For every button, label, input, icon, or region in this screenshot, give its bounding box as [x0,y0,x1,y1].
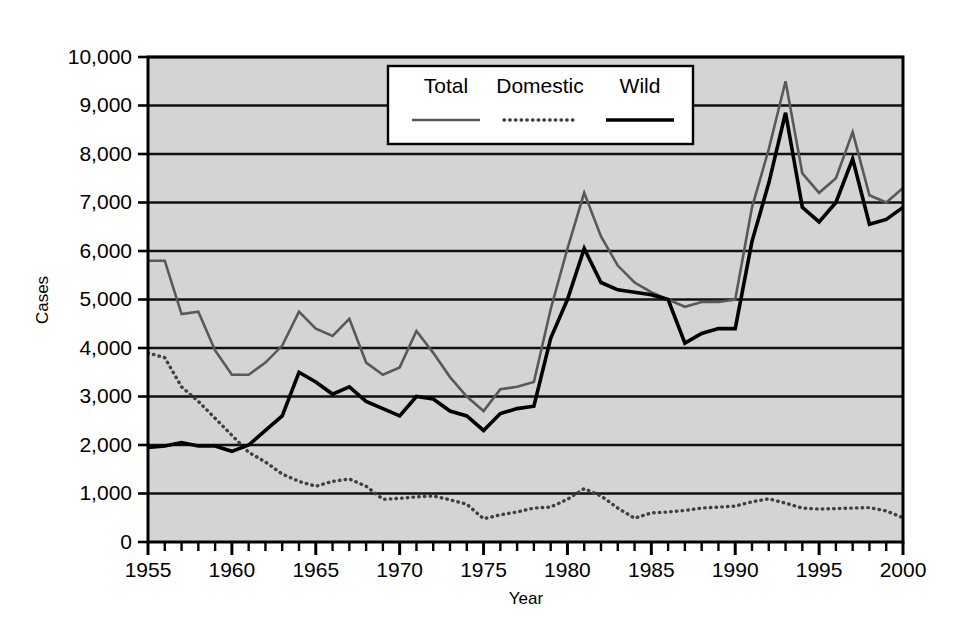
x-tick-label: 1990 [712,558,759,581]
x-tick-label: 1960 [209,558,256,581]
x-tick-label: 1965 [292,558,339,581]
x-tick-label: 1985 [628,558,675,581]
chart-figure: 01,0002,0003,0004,0005,0006,0007,0008,00… [0,0,972,637]
x-tick-label: 2000 [880,558,927,581]
y-tick-label: 0 [120,530,132,553]
chart-legend[interactable]: TotalDomesticWild [388,66,693,144]
y-tick-label: 6,000 [79,239,132,262]
y-tick-label: 1,000 [79,481,132,504]
legend-label-total[interactable]: Total [424,74,468,97]
x-tick-label: 1970 [376,558,423,581]
x-tick-label: 1975 [460,558,507,581]
y-tick-label: 5,000 [79,287,132,310]
y-tick-label: 2,000 [79,433,132,456]
legend-label-wild[interactable]: Wild [620,74,661,97]
x-tick-label: 1955 [125,558,172,581]
y-tick-label: 10,000 [68,45,132,68]
rabies-cases-line-chart: 01,0002,0003,0004,0005,0006,0007,0008,00… [0,0,972,637]
y-axis-title: Cases [33,276,52,324]
y-tick-label: 3,000 [79,384,132,407]
legend-label-domestic[interactable]: Domestic [496,74,584,97]
y-tick-label: 9,000 [79,93,132,116]
x-axis-title: Year [509,589,544,608]
x-tick-label: 1980 [544,558,591,581]
x-tick-label: 1995 [796,558,843,581]
y-tick-label: 8,000 [79,142,132,165]
y-tick-label: 4,000 [79,336,132,359]
y-tick-label: 7,000 [79,190,132,213]
